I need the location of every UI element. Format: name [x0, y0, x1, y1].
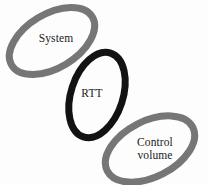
chain-link-diagram: System RTT Control volume [0, 0, 208, 185]
ring-system [0, 0, 106, 88]
chain-rings-graphic [0, 0, 208, 185]
ring-control-volume [95, 102, 206, 185]
